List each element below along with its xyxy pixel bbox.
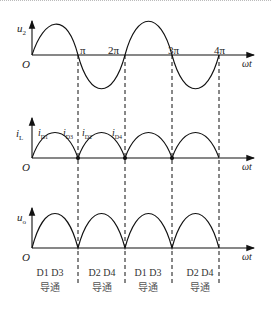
current-label-D2: iD2 <box>82 128 92 140</box>
caption-1: D1 D3导通 <box>30 265 70 295</box>
plot-uo <box>32 208 254 248</box>
current-label-D1: iD1 <box>38 128 48 140</box>
y-label-iL: iL <box>16 128 23 142</box>
tick-3pi: 3π <box>168 45 179 56</box>
x-label: ωt <box>242 252 252 262</box>
dashed-guides <box>78 55 219 283</box>
y-label-uo: uo <box>17 212 26 226</box>
caption-3: D1 D3导通 <box>128 265 168 295</box>
origin-label: O <box>22 59 30 70</box>
tick-4pi: 4π <box>214 45 225 56</box>
x-label: ωt <box>242 162 252 172</box>
y-label-u2: u2 <box>17 23 26 37</box>
tick-2pi: 2π <box>108 45 119 56</box>
caption-4: D2 D4导通 <box>180 265 220 295</box>
current-label-D3: iD3 <box>63 128 73 140</box>
caption-2: D2 D4导通 <box>82 265 122 295</box>
x-label: ωt <box>242 59 252 69</box>
current-label-D4: iD4 <box>112 128 122 140</box>
origin-label: O <box>22 252 30 263</box>
tick-pi: π <box>80 45 86 56</box>
origin-label: O <box>22 162 30 173</box>
